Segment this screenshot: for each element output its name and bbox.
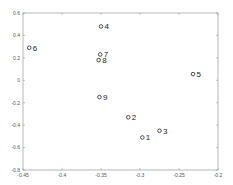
point-label: 4 [105, 22, 110, 31]
point-label: 6 [33, 44, 38, 53]
scatter-chart: -0.45-0.4-0.35-0.3-0.25-0.2 0.60.40.20-0… [0, 0, 233, 185]
point-label: 3 [163, 127, 168, 136]
point-label: 8 [102, 56, 107, 65]
x-tick-label: -0.45 [17, 172, 29, 178]
point-label: 5 [197, 70, 202, 79]
y-tick-label: 0.4 [13, 32, 20, 38]
point-label: 9 [103, 93, 108, 102]
y-tick-label: -0.6 [11, 144, 20, 150]
y-tick-label: -0.4 [11, 122, 20, 128]
y-tick-label: -0.2 [11, 100, 20, 106]
y-tick-label: 0 [17, 77, 20, 83]
point-label: 2 [132, 113, 137, 122]
x-tick-label: -0.3 [136, 172, 145, 178]
x-tick-label: -0.2 [214, 172, 223, 178]
x-tick-label: -0.4 [58, 172, 67, 178]
x-tick-label: -0.35 [95, 172, 107, 178]
x-tick-label: -0.25 [173, 172, 185, 178]
y-tick-label: 0.6 [13, 10, 20, 16]
point-label: 1 [146, 133, 151, 142]
y-tick-label: 0.2 [13, 55, 20, 61]
plot-frame [23, 13, 218, 170]
y-tick-label: -0.8 [11, 167, 20, 173]
